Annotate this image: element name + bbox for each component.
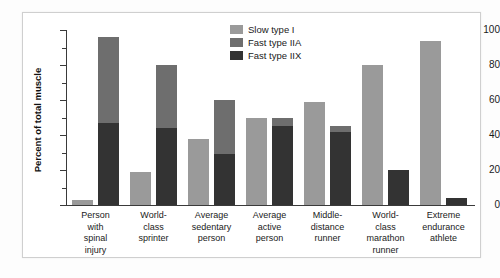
- segment-fast-type-iix: [330, 132, 351, 206]
- x-label-5: World-classmarathonrunner: [353, 210, 418, 256]
- x-label-line: spinal: [63, 233, 128, 245]
- bar-fast-stack: [156, 65, 177, 205]
- x-label-line: with: [63, 222, 128, 234]
- x-label-line: active: [237, 222, 302, 234]
- x-label-line: Average: [237, 210, 302, 222]
- bar-slow-type-i: [420, 41, 441, 206]
- segment-fast-type-iia: [156, 65, 177, 128]
- x-label-line: sprinter: [121, 233, 186, 245]
- x-label-line: class: [353, 222, 418, 234]
- segment-fast-type-iix: [214, 154, 235, 205]
- x-label-3: Averageactiveperson: [237, 210, 302, 245]
- x-label-line: Extreme: [411, 210, 476, 222]
- legend-item: Slow type I: [230, 24, 301, 36]
- segment-fast-type-iix: [156, 128, 177, 205]
- segment-fast-type-iia: [330, 126, 351, 131]
- bar-group: [362, 30, 420, 205]
- legend-swatch-icon: [230, 51, 243, 60]
- x-label-line: class: [121, 222, 186, 234]
- x-label-1: World-classsprinter: [121, 210, 186, 245]
- segment-fast-type-iix: [272, 126, 293, 205]
- bar-fast-stack: [446, 198, 467, 205]
- bar-fast-stack: [388, 170, 409, 205]
- legend-item: Fast type IIA: [230, 37, 301, 49]
- legend-label: Slow type I: [248, 24, 294, 35]
- figure: Percent of total muscle 020406080100 Per…: [0, 0, 500, 278]
- x-label-line: Person: [63, 210, 128, 222]
- bar-group: [304, 30, 362, 205]
- bar-fast-stack: [98, 37, 119, 205]
- bar-fast-stack: [272, 118, 293, 206]
- segment-fast-type-iix: [98, 123, 119, 205]
- bar-slow-type-i: [304, 102, 325, 205]
- legend-swatch-icon: [230, 25, 243, 34]
- bar-slow-type-i: [362, 65, 383, 205]
- bar-group: [130, 30, 188, 205]
- x-label-6: Extremeenduranceathlete: [411, 210, 476, 245]
- x-label-line: marathon: [353, 233, 418, 245]
- bar-slow-type-i: [246, 118, 267, 206]
- x-label-line: World-: [353, 210, 418, 222]
- bar-slow-type-i: [188, 139, 209, 206]
- x-label-line: athlete: [411, 233, 476, 245]
- bar-slow-type-i: [72, 200, 93, 205]
- x-axis-line: [66, 205, 475, 206]
- legend-label: Fast type IIX: [248, 50, 301, 61]
- segment-fast-type-iia: [98, 37, 119, 123]
- x-label-line: Middle-: [295, 210, 360, 222]
- x-label-line: runner: [353, 245, 418, 257]
- segment-fast-type-iix: [388, 170, 409, 205]
- x-label-line: distance: [295, 222, 360, 234]
- segment-fast-type-iia: [214, 100, 235, 154]
- x-label-4: Middle-distancerunner: [295, 210, 360, 245]
- legend: Slow type IFast type IIAFast type IIX: [230, 24, 301, 63]
- x-label-line: person: [237, 233, 302, 245]
- legend-swatch-icon: [230, 38, 243, 47]
- segment-fast-type-iia: [272, 118, 293, 127]
- y-tick-0: [60, 205, 66, 206]
- x-label-line: Average: [179, 210, 244, 222]
- x-label-line: injury: [63, 245, 128, 257]
- bar-group: [420, 30, 478, 205]
- legend-label: Fast type IIA: [248, 37, 301, 48]
- segment-fast-type-iix: [446, 198, 467, 205]
- x-label-line: World-: [121, 210, 186, 222]
- x-label-0: Personwithspinalinjury: [63, 210, 128, 256]
- x-label-line: endurance: [411, 222, 476, 234]
- x-label-line: runner: [295, 233, 360, 245]
- legend-item: Fast type IIX: [230, 50, 301, 62]
- x-label-line: person: [179, 233, 244, 245]
- bar-group: [72, 30, 130, 205]
- bar-fast-stack: [330, 126, 351, 205]
- x-label-line: sedentary: [179, 222, 244, 234]
- x-label-2: Averagesedentaryperson: [179, 210, 244, 245]
- bar-fast-stack: [214, 100, 235, 205]
- bar-slow-type-i: [130, 172, 151, 205]
